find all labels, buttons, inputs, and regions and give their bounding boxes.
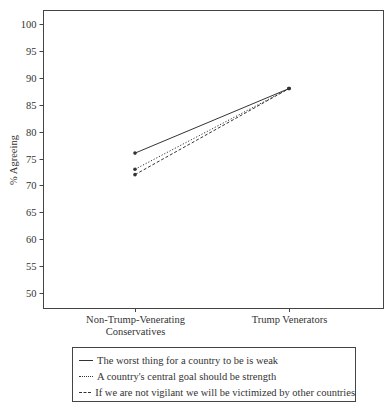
data-point-marker xyxy=(133,151,137,155)
dashed-line-swatch-icon xyxy=(79,392,91,393)
chart-legend: The worst thing for a country to be is w… xyxy=(72,347,356,402)
y-tick-label: 55 xyxy=(26,261,37,272)
y-tick-label: 85 xyxy=(26,100,37,111)
data-series xyxy=(133,87,291,177)
y-tick-label: 60 xyxy=(26,234,37,245)
x-category-label: Conservatives xyxy=(106,326,166,337)
series-line xyxy=(135,89,289,154)
x-axis-ticks: Non-Trump-VeneratingConservativesTrump V… xyxy=(86,309,327,338)
y-axis-ticks: 50556065707580859095100 xyxy=(21,19,44,299)
y-tick-label: 95 xyxy=(26,46,37,57)
series-line xyxy=(135,89,289,175)
legend-label: The worst thing for a country to be is w… xyxy=(97,355,278,366)
legend-item-strength: A country's central goal should be stren… xyxy=(79,368,355,384)
x-category-label: Trump Venerators xyxy=(252,314,328,325)
dotted-line-swatch-icon xyxy=(79,376,93,377)
y-tick-label: 65 xyxy=(26,207,37,218)
legend-label: If we are not vigilant we will be victim… xyxy=(95,387,355,398)
plot-frame xyxy=(44,11,384,309)
y-tick-label: 75 xyxy=(26,154,37,165)
y-axis-title: % Agreeing xyxy=(8,134,19,185)
legend-item-weak: The worst thing for a country to be is w… xyxy=(79,352,355,368)
x-category-label: Non-Trump-Venerating xyxy=(86,314,186,325)
legend-label: A country's central goal should be stren… xyxy=(97,371,276,382)
y-tick-label: 50 xyxy=(26,288,37,299)
data-point-marker xyxy=(133,167,137,171)
data-point-marker xyxy=(287,87,291,91)
legend-item-vigilant: If we are not vigilant we will be victim… xyxy=(79,384,355,400)
y-tick-label: 70 xyxy=(26,180,37,191)
y-tick-label: 100 xyxy=(21,19,37,30)
y-tick-label: 80 xyxy=(26,127,37,138)
series-line xyxy=(135,89,289,170)
data-point-marker xyxy=(133,173,137,177)
y-tick-label: 90 xyxy=(26,73,37,84)
line-chart: 50556065707580859095100 Non-Trump-Venera… xyxy=(0,0,391,345)
solid-line-swatch-icon xyxy=(79,360,93,361)
